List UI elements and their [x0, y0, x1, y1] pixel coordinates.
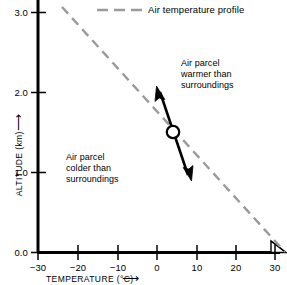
y-tick-label-2: 2.0: [2, 87, 28, 98]
x-axis-arrow-glyph: ⟶: [122, 271, 139, 285]
parcel-arrow-head-up-icon: [155, 86, 165, 101]
air-parcel-marker: [167, 126, 179, 138]
x-tick-label-0: 0: [142, 262, 172, 273]
x-tick-label-20: 20: [221, 262, 251, 273]
y-axis-title-group: ALTITUDE (km)⟶: [8, 100, 22, 210]
warmer-annotation-line-2: warmer than: [181, 69, 232, 80]
x-tick-label-n30: −30: [23, 262, 53, 273]
legend-label: Air temperature profile: [148, 4, 244, 15]
y-tick-label-0: 0.0: [2, 247, 28, 258]
x-axis-title: TEMPERATURE (°C): [46, 274, 134, 284]
warmer-annotation-line-3: surroundings: [181, 80, 234, 91]
x-tick-label-n20: −20: [63, 262, 93, 273]
chart-plot-area: [0, 0, 287, 285]
x-tick-label-30: 30: [260, 262, 287, 273]
y-axis-arrow-glyph: ⟶: [11, 114, 25, 131]
colder-annotation-line-1: Air parcel: [66, 152, 105, 163]
warmer-annotation-line-1: Air parcel: [181, 58, 220, 69]
temperature-altitude-chart: 3.0 2.0 1.0 0.0 −30 −20 −10 0 10 20 30 A…: [0, 0, 287, 285]
colder-annotation-line-2: colder than: [66, 163, 111, 174]
x-tick-label-10: 10: [182, 262, 212, 273]
y-tick-label-3: 3.0: [2, 7, 28, 18]
parcel-arrow-head-down-icon: [183, 166, 193, 181]
colder-annotation-line-3: surroundings: [66, 174, 119, 185]
y-axis-title: ALTITUDE (km): [14, 131, 24, 196]
